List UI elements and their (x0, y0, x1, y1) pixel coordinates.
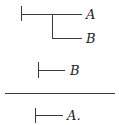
label-a: A. (67, 109, 81, 122)
condition-stroke-vertical (52, 14, 53, 39)
label-a: A (86, 8, 95, 21)
condition-stroke-horizontal (52, 38, 82, 39)
label-b: B (86, 32, 96, 45)
label-b: B (70, 64, 80, 77)
content-stroke (35, 115, 63, 116)
inference-line (5, 93, 115, 94)
content-stroke (38, 70, 65, 71)
